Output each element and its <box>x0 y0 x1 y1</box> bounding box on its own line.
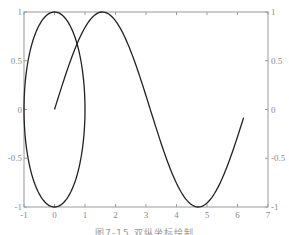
tick-labels: -101234567-1-0.500.51-1-0.500.51 <box>8 7 286 220</box>
x-tick-label: 7 <box>266 210 271 220</box>
axis-ticks <box>24 12 268 207</box>
y-right-tick-label: 1 <box>271 7 276 17</box>
y-left-tick-label: 0.5 <box>11 56 23 66</box>
dual-axis-line-chart: -101234567-1-0.500.51-1-0.500.51 <box>0 0 289 235</box>
figure-caption: 图7-15 双纵坐标绘制 <box>0 226 289 235</box>
y-right-tick-label: -0.5 <box>271 153 286 163</box>
y-right-tick-label: 0.5 <box>271 56 283 66</box>
x-tick-label: 3 <box>144 210 149 220</box>
y-right-tick-label: -1 <box>271 202 279 212</box>
x-tick-label: 0 <box>52 210 57 220</box>
x-tick-label: 4 <box>174 210 179 220</box>
x-tick-label: 5 <box>205 210 210 220</box>
y-left-tick-label: 0 <box>18 105 23 115</box>
y-left-tick-label: -0.5 <box>8 153 23 163</box>
sine-series <box>55 12 244 207</box>
x-tick-label: 2 <box>113 210 118 220</box>
x-tick-label: 1 <box>83 210 88 220</box>
x-tick-label: 6 <box>235 210 240 220</box>
y-right-tick-label: 0 <box>271 105 276 115</box>
y-left-tick-label: -1 <box>15 202 23 212</box>
y-left-tick-label: 1 <box>18 7 23 17</box>
plot-frame <box>24 12 268 207</box>
